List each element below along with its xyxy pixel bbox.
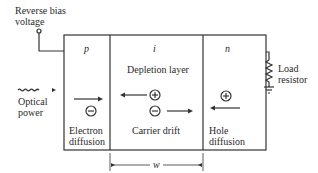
bias-terminal-icon — [37, 29, 41, 33]
bias-label-2: voltage — [15, 16, 44, 27]
electron-diffusion-label: Electron — [69, 125, 103, 136]
electron-diffusion-label-2: diffusion — [69, 136, 105, 147]
optical-power-wave-icon — [18, 89, 39, 91]
hole-diffusion-label-2: diffusion — [209, 136, 245, 147]
load-resistor-label: Load — [278, 63, 299, 74]
optical-power-label-2: power — [18, 107, 43, 118]
load-resistor-label-2: resistor — [278, 74, 307, 85]
hole-diffusion-label: Hole — [209, 125, 228, 136]
bias-wire — [39, 33, 64, 51]
n-region-label: n — [225, 43, 230, 54]
depletion-layer-label: Depletion layer — [127, 64, 189, 75]
p-region-label: p — [84, 43, 89, 54]
width-label: w — [153, 159, 160, 170]
carrier-drift-label: Carrier drift — [132, 125, 180, 136]
resistor-icon — [266, 60, 272, 87]
bias-label: Reverse bias — [15, 5, 66, 16]
i-region-label: i — [153, 43, 156, 54]
diagram-canvas — [0, 0, 318, 173]
optical-power-label: Optical — [18, 96, 47, 107]
